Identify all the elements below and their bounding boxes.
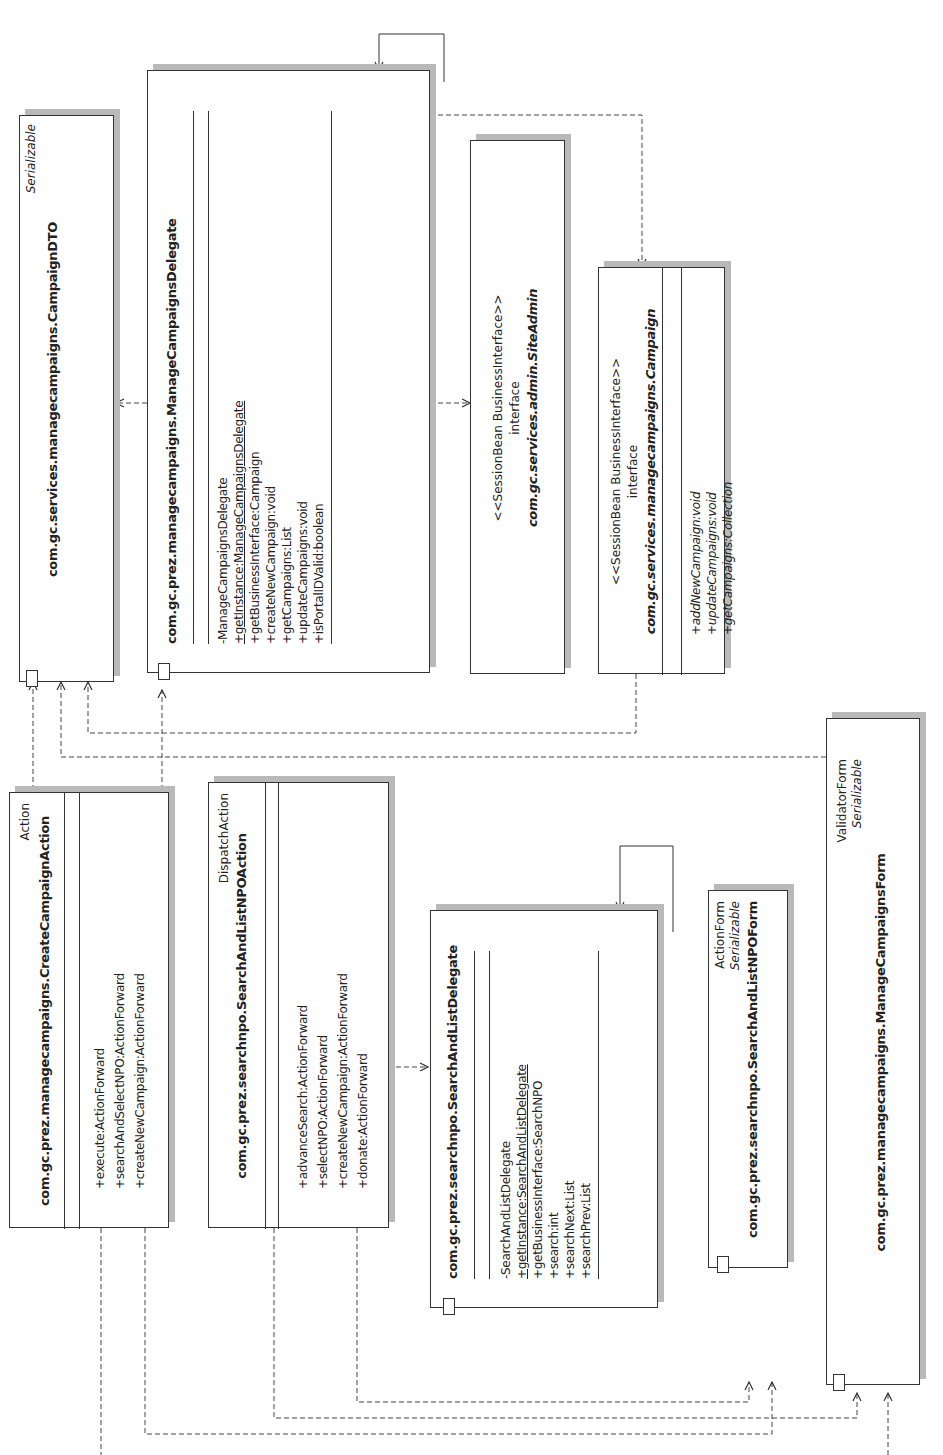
- operation-list: -SearchAndListDelegate +getInstance:Sear…: [490, 911, 594, 1309]
- operation-static: +getInstance:SearchAndListDelegate: [514, 911, 530, 1279]
- attribute-separator: [474, 951, 475, 1279]
- interface-label: interface: [624, 268, 641, 675]
- class-name: com.gc.prez.managecampaigns.ManageCampai…: [158, 71, 187, 674]
- class-name: com.gc.prez.searchnpo.SearchAndListNPOFo…: [743, 891, 760, 1269]
- class-tab-icon: [717, 1256, 729, 1273]
- operation: +getCampaigns:Collection: [720, 268, 736, 635]
- stereotype-label: DispatchAction: [209, 783, 232, 1229]
- operation: +updateCampaigns:void: [704, 268, 720, 635]
- operation: -ManageCampaignsDelegate: [215, 71, 231, 644]
- class-campaign-dto[interactable]: Serializable com.gc.services.managecampa…: [19, 115, 114, 682]
- operation-list: +advanceSearch:ActionForward +selectNPO:…: [279, 783, 373, 1229]
- class-manage-campaigns-form[interactable]: ValidatorForm Serializable com.gc.prez.m…: [826, 718, 920, 1385]
- class-search-and-list-npo-action[interactable]: DispatchAction com.gc.prez.searchnpo.Sea…: [208, 782, 389, 1228]
- interface-label: interface: [506, 141, 523, 675]
- class-search-and-list-npo-form[interactable]: ActionForm Serializable com.gc.prez.sear…: [708, 890, 788, 1268]
- operation: +search:int: [546, 911, 562, 1279]
- class-name: com.gc.prez.managecampaigns.ManageCampai…: [865, 719, 896, 1386]
- operation: +searchPrev:List: [578, 911, 594, 1279]
- class-manage-campaigns-delegate[interactable]: com.gc.prez.managecampaigns.ManageCampai…: [147, 70, 430, 673]
- operation: +updateCampaigns:void: [295, 71, 311, 644]
- stereotype-label: Action: [10, 793, 33, 1229]
- stereotype-label: ActionForm: [709, 891, 728, 1269]
- interface-site-admin[interactable]: <<SessionBean BusinessInterface>> interf…: [470, 140, 565, 674]
- class-create-campaign-action[interactable]: Action com.gc.prez.managecampaigns.Creat…: [9, 792, 169, 1228]
- bottom-separator: [331, 111, 332, 644]
- operation-list: +addNewCampaign:void +updateCampaigns:vo…: [682, 268, 736, 675]
- class-name: com.gc.services.managecampaigns.Campaign…: [39, 116, 68, 683]
- operation: +createNewCampaign:ActionForward: [333, 783, 353, 1189]
- attribute-separator: [64, 793, 65, 1229]
- operation-static: +getInstance:ManageCampaignsDelegate: [231, 71, 247, 644]
- attribute-separator: [193, 111, 194, 644]
- operation: +advanceSearch:ActionForward: [293, 783, 313, 1189]
- stereotype-label: <<SessionBean BusinessInterface>>: [485, 141, 506, 675]
- class-name: com.gc.services.admin.SiteAdmin: [523, 141, 548, 675]
- operation: +createNewCampaign:ActionForward: [130, 793, 150, 1189]
- class-name: com.gc.services.managecampaigns.Campaign: [641, 268, 662, 675]
- operation: +addNewCampaign:void: [688, 268, 704, 635]
- operation: -SearchAndListDelegate: [498, 911, 514, 1279]
- class-search-and-list-delegate[interactable]: com.gc.prez.searchnpo.SearchAndListDeleg…: [430, 910, 658, 1308]
- operation: +searchAndSelectNPO:ActionForward: [110, 793, 130, 1189]
- operation: +selectNPO:ActionForward: [313, 783, 333, 1189]
- stereotype-label: Serializable: [20, 116, 39, 683]
- stereotype-label-2: Serializable: [850, 719, 865, 1386]
- stereotype-label: ValidatorForm: [827, 719, 850, 1386]
- stereotype-label: <<SessionBean BusinessInterface>>: [599, 268, 624, 675]
- attribute-separator: [662, 268, 663, 675]
- operation: +getCampaigns:List: [279, 71, 295, 644]
- class-name: com.gc.prez.managecampaigns.CreateCampai…: [33, 793, 64, 1229]
- operation: +createNewCampaign:void: [263, 71, 279, 644]
- operation: +searchNext:List: [562, 911, 578, 1279]
- class-name: com.gc.prez.searchnpo.SearchAndListDeleg…: [431, 911, 470, 1309]
- operation-list: -ManageCampaignsDelegate +getInstance:Ma…: [209, 71, 327, 674]
- operation: +donate:ActionForward: [353, 783, 373, 1189]
- attribute-separator: [265, 783, 266, 1229]
- operation-list: +execute:ActionForward +searchAndSelectN…: [80, 793, 150, 1229]
- interface-campaign[interactable]: <<SessionBean BusinessInterface>> interf…: [598, 267, 725, 674]
- class-name: com.gc.prez.searchnpo.SearchAndListNPOAc…: [232, 783, 259, 1229]
- operation: +getBusinessInterface:SearchNPO: [530, 911, 546, 1279]
- bottom-separator: [598, 951, 599, 1279]
- operation: +isPortalIDValid:boolean: [311, 71, 327, 644]
- class-tab-icon: [26, 670, 38, 687]
- class-tab-icon: [158, 663, 170, 680]
- operation: +getBusinessInterface:Campaign: [247, 71, 263, 644]
- class-tab-icon: [443, 1298, 455, 1315]
- stereotype-label-2: Serializable: [728, 891, 743, 1269]
- class-tab-icon: [833, 1374, 845, 1391]
- operation: +execute:ActionForward: [90, 793, 110, 1189]
